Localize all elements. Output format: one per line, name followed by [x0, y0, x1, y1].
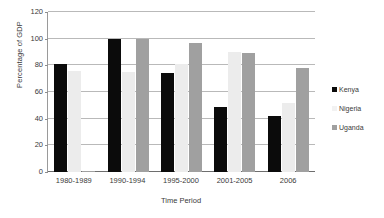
x-axis-tick-label: 1980-1989: [47, 176, 101, 185]
legend-swatch-icon: [332, 125, 337, 130]
legend-label: Uganda: [339, 124, 364, 131]
bar-group: [262, 12, 315, 172]
bar-chart: Percentage of GDP 020406080100120 1980-1…: [0, 0, 384, 218]
bar-group: [48, 12, 101, 172]
bars-layer: [48, 12, 315, 172]
legend-item-kenya[interactable]: Kenya: [332, 86, 364, 93]
legend-label: Nigeria: [339, 105, 361, 112]
legend-item-uganda[interactable]: Uganda: [332, 124, 364, 131]
bar-group: [101, 12, 154, 172]
y-axis-title: Percentage of GDP: [15, 0, 24, 120]
y-axis-tick-label: 120: [13, 8, 43, 16]
y-axis-tick-label: 100: [13, 35, 43, 43]
x-axis-tick-label: 1990-1994: [101, 176, 155, 185]
bar-nigeria-1995-2000: [175, 64, 188, 172]
bar-kenya-1980-1989: [54, 64, 67, 172]
plot-area: 020406080100120: [47, 12, 315, 172]
bar-group: [208, 12, 261, 172]
bar-nigeria-1990-1994: [122, 72, 135, 172]
bar-nigeria-2006: [282, 103, 295, 172]
bar-nigeria-1980-1989: [68, 71, 81, 172]
legend-swatch-icon: [332, 106, 337, 111]
y-axis-tick-label: 0: [13, 168, 43, 176]
y-axis-tick-label: 20: [13, 142, 43, 150]
y-axis-tick-mark: [45, 172, 48, 173]
bar-kenya-1995-2000: [161, 73, 174, 172]
legend-label: Kenya: [339, 86, 359, 93]
y-axis-tick-label: 80: [13, 62, 43, 70]
bar-kenya-1990-1994: [108, 39, 121, 172]
x-axis-tick-labels: 1980-19891990-19941995-20002001-20052006: [47, 176, 315, 185]
chart-legend: KenyaNigeriaUganda: [332, 86, 364, 131]
bar-group: [155, 12, 208, 172]
bar-uganda-1980-1989: [82, 171, 95, 172]
y-axis-tick-label: 60: [13, 88, 43, 96]
bar-uganda-2006: [296, 68, 309, 172]
bar-uganda-1995-2000: [189, 43, 202, 172]
y-axis-tick-label: 40: [13, 115, 43, 123]
legend-item-nigeria[interactable]: Nigeria: [332, 105, 364, 112]
bar-nigeria-2001-2005: [228, 52, 241, 172]
x-axis-title: Time Period: [47, 196, 315, 205]
bar-uganda-2001-2005: [242, 53, 255, 172]
x-axis-tick-label: 2001-2005: [208, 176, 262, 185]
legend-swatch-icon: [332, 87, 337, 92]
bar-kenya-2006: [268, 116, 281, 172]
x-axis-tick-label: 1995-2000: [154, 176, 208, 185]
bar-kenya-2001-2005: [214, 107, 227, 172]
x-axis-tick-label: 2006: [261, 176, 315, 185]
bar-uganda-1990-1994: [136, 39, 149, 172]
